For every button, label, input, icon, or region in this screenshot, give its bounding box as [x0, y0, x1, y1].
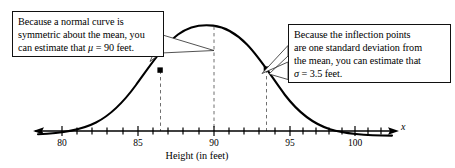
left-inflection-point-marker — [157, 67, 162, 72]
mean-callout[interactable]: Because a normal curve is symmetric abou… — [12, 11, 164, 57]
x-tick-label-85: 85 — [133, 138, 143, 148]
mean-callout-line-3-pre: can estimate that — [18, 42, 88, 53]
x-axis-variable-label: x — [401, 121, 405, 132]
std-dev-callout-line-2: are one standard deviation from — [294, 41, 445, 54]
x-tick-label-95: 95 — [285, 138, 295, 148]
mean-callout-line-1: Because a normal curve is — [18, 15, 158, 28]
mean-callout-line-3: can estimate that μ = 90 feet. — [18, 41, 158, 54]
std-dev-callout-line-1: Because the inflection points — [294, 28, 445, 41]
x-tick-label-90: 90 — [209, 138, 219, 148]
std-dev-callout-line-3: the mean, you can estimate that — [294, 54, 445, 67]
x-tick-label-100: 100 — [348, 138, 362, 148]
mean-callout-line-2: symmetric about the mean, you — [18, 28, 158, 41]
x-axis-title: Height (in feet) — [166, 150, 229, 161]
figure-canvas: Because a normal curve is symmetric abou… — [0, 0, 455, 168]
x-tick-label-80: 80 — [57, 138, 67, 148]
sigma-callout-leader — [262, 46, 288, 80]
std-dev-callout[interactable]: Because the inflection points are one st… — [288, 24, 451, 83]
std-dev-callout-line-4: σ = 3.5 feet. — [294, 67, 445, 80]
std-dev-callout-line-4-post: = 3.5 feet. — [299, 68, 342, 79]
mean-callout-line-3-post: = 90 feet. — [93, 42, 134, 53]
